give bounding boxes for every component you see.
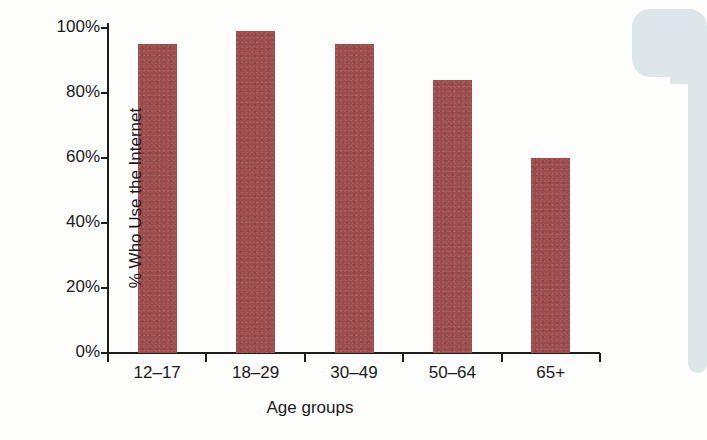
bar (433, 80, 472, 353)
x-axis-category-label: 18–29 (206, 363, 304, 383)
x-axis-category-label: 65+ (502, 363, 600, 383)
x-axis-category-label: 30–49 (305, 363, 403, 383)
y-axis-tick-label-text: 80% (38, 82, 100, 102)
x-axis-tick (501, 353, 503, 362)
x-axis-tick (107, 353, 109, 362)
bar (138, 44, 177, 353)
y-axis-tick-label-text: 100% (38, 17, 100, 37)
y-axis-tick-label: 60% (30, 147, 100, 167)
plot-area (108, 28, 600, 353)
y-axis-tick-label: 80% (30, 82, 100, 102)
y-axis-tick-label-text: 0% (38, 342, 100, 362)
decoration-rounded-shape (632, 9, 707, 77)
y-axis-tick-label-text: 40% (38, 212, 100, 232)
decoration-notch-shape (670, 48, 707, 84)
bar (236, 31, 275, 353)
y-axis-tick-label-text: 20% (38, 277, 100, 297)
x-axis-tick (402, 353, 404, 362)
x-axis-tick (599, 353, 601, 362)
x-axis-tick (304, 353, 306, 362)
y-axis-tick-label: 0% (30, 342, 100, 362)
x-axis-category-label: 50–64 (403, 363, 501, 383)
bar-chart-figure: 0%20%40%60%80%100% 12–1718–2930–4950–646… (0, 0, 707, 440)
bar (335, 44, 374, 353)
bar (531, 158, 570, 353)
decoration-vertical-bar (688, 55, 707, 373)
y-axis-tick-label: 20% (30, 277, 100, 297)
x-axis-tick (205, 353, 207, 362)
x-axis-title: Age groups (0, 398, 620, 418)
y-axis-tick-label-text: 60% (38, 147, 100, 167)
y-axis-tick-label: 100% (30, 17, 100, 37)
x-axis-category-label: 12–17 (108, 363, 206, 383)
y-axis-tick-label: 40% (30, 212, 100, 232)
